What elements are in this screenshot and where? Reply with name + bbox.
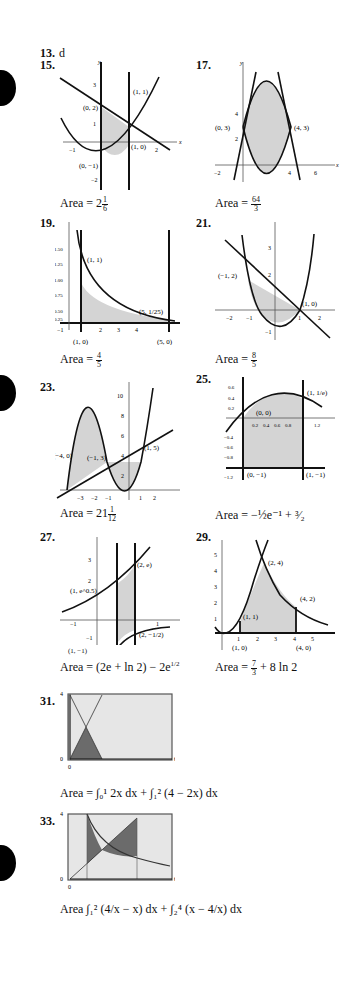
- svg-text:4: 4: [235, 111, 238, 117]
- graph-15: (0, 2) (1, 1) (1, 0) (0, −1) −12 31−2 xy: [55, 60, 185, 192]
- svg-text:(0, 0): (0, 0): [256, 409, 272, 417]
- area-29: Area = 73 + 8 ln 2: [215, 660, 297, 677]
- svg-text:(2, 4): (2, 4): [268, 559, 284, 567]
- graph-21: (−1, 2) (1, 0) −2−112 32−1: [210, 220, 340, 345]
- svg-text:6: 6: [174, 756, 175, 762]
- svg-text:(0, −1): (0, −1): [247, 471, 267, 479]
- svg-text:−1: −1: [265, 329, 271, 335]
- svg-text:(0, 3): (0, 3): [215, 124, 231, 132]
- svg-text:−2: −2: [91, 177, 97, 183]
- svg-text:−1: −1: [86, 635, 92, 641]
- svg-text:(1, 1): (1, 1): [243, 613, 259, 621]
- svg-text:0.6: 0.6: [274, 423, 281, 428]
- svg-text:(1, 1): (1, 1): [133, 88, 149, 96]
- svg-text:(1, 1): (1, 1): [87, 256, 103, 264]
- graph-29: (2, 4) (4, 2) (1, 1) (1, 0) (4, 0) 54321…: [210, 535, 340, 655]
- svg-text:1: 1: [237, 636, 240, 642]
- graph-25: (0, 0) (1, 1/e) (0, −1) (1, −1) 0.20.40.…: [210, 375, 340, 485]
- svg-text:10: 10: [117, 393, 123, 399]
- svg-text:8: 8: [121, 413, 124, 419]
- svg-text:2: 2: [155, 147, 158, 153]
- svg-text:6: 6: [314, 170, 317, 176]
- svg-text:1.00: 1.00: [55, 278, 63, 283]
- svg-text:(1, 0): (1, 0): [73, 338, 89, 345]
- svg-text:(1, −1): (1, −1): [306, 471, 326, 479]
- svg-text:−2: −2: [214, 170, 220, 176]
- svg-text:x: x: [335, 162, 339, 168]
- svg-text:4: 4: [214, 568, 217, 574]
- svg-text:0.25: 0.25: [55, 317, 63, 322]
- area-15: Area = 216: [60, 196, 108, 213]
- svg-text:0.2: 0.2: [252, 423, 259, 428]
- graph-19: (1, 1) (5, 1/25) (1, 0) (5, 0) 1.501.251…: [55, 220, 185, 345]
- svg-text:0: 0: [60, 756, 63, 762]
- svg-text:4: 4: [60, 691, 63, 697]
- problem-number-19: 19.: [40, 216, 55, 231]
- svg-text:(4, 0): (4, 0): [296, 644, 312, 652]
- svg-text:2: 2: [121, 473, 124, 479]
- svg-text:4: 4: [293, 636, 296, 642]
- svg-text:4: 4: [288, 170, 291, 176]
- svg-text:(2, e): (2, e): [137, 561, 152, 569]
- svg-text:(1, 1/e): (1, 1/e): [307, 389, 328, 397]
- area-17: Area = 643: [215, 196, 261, 213]
- svg-text:3: 3: [88, 557, 91, 563]
- svg-text:1: 1: [214, 616, 217, 622]
- svg-text:0: 0: [68, 764, 71, 770]
- svg-text:4: 4: [121, 453, 124, 459]
- svg-text:(0, 2): (0, 2): [83, 104, 99, 112]
- svg-text:(1, 0): (1, 0): [232, 644, 248, 652]
- point-label-27: (1, −1): [68, 647, 87, 655]
- svg-text:(5, 1/25): (5, 1/25): [139, 308, 164, 316]
- area-23: Area = 21112: [60, 506, 116, 523]
- svg-text:1: 1: [139, 495, 142, 501]
- svg-text:0.6: 0.6: [228, 385, 235, 390]
- svg-text:3: 3: [93, 82, 96, 88]
- area-21: Area = 85: [215, 352, 257, 369]
- area-19: Area = 45: [60, 352, 102, 369]
- svg-text:(4, 3): (4, 3): [294, 124, 310, 132]
- svg-text:2: 2: [268, 272, 271, 278]
- svg-text:(1, 0): (1, 0): [302, 300, 318, 308]
- svg-text:1: 1: [156, 621, 159, 627]
- svg-text:1: 1: [93, 121, 96, 127]
- problem-number-17: 17.: [196, 58, 211, 73]
- svg-text:2: 2: [214, 600, 217, 606]
- svg-text:(1, 5): (1, 5): [144, 444, 160, 452]
- svg-text:0: 0: [60, 876, 63, 882]
- graph-27: (2, e) (1, e^0.5) (2, −1/2) −11 32−1: [55, 535, 185, 645]
- problem-number-27: 27.: [40, 530, 55, 545]
- svg-text:x: x: [178, 139, 182, 145]
- svg-text:0.8: 0.8: [285, 423, 292, 428]
- problem-number-29: 29.: [196, 530, 211, 545]
- svg-text:(−1, 3): (−1, 3): [87, 454, 107, 462]
- svg-text:3: 3: [117, 327, 120, 333]
- svg-text:2: 2: [235, 136, 238, 142]
- svg-text:−1: −1: [69, 147, 75, 153]
- calculator-graph-31: 4 0 0 6: [60, 688, 175, 770]
- problem-number-15: 15.: [40, 58, 55, 73]
- area-27: Area = (2e + ln 2) − 2e1/2: [60, 660, 180, 675]
- svg-text:−2: −2: [226, 315, 232, 321]
- svg-text:5: 5: [311, 636, 314, 642]
- binder-hole-bottom: [0, 845, 16, 881]
- problem-number-33: 33.: [40, 814, 55, 829]
- svg-text:−2: −2: [91, 495, 97, 501]
- svg-text:0: 0: [68, 884, 71, 890]
- svg-text:(1, 0): (1, 0): [131, 143, 147, 151]
- svg-text:−1: −1: [105, 495, 111, 501]
- graph-23: (−4, 0) (−1, 3) (1, 5) 108642 −3−2−112: [55, 380, 185, 505]
- answer: d: [59, 46, 65, 60]
- svg-text:−1.2: −1.2: [224, 475, 234, 480]
- svg-text:2: 2: [256, 636, 259, 642]
- svg-text:(1, e^0.5): (1, e^0.5): [70, 587, 97, 595]
- problem-number-25: 25.: [196, 372, 211, 387]
- svg-text:−0.4: −0.4: [224, 435, 234, 440]
- svg-text:4: 4: [135, 327, 138, 333]
- svg-text:−0.8: −0.8: [224, 455, 234, 460]
- svg-text:2: 2: [88, 578, 91, 584]
- svg-text:6: 6: [121, 433, 124, 439]
- svg-text:y: y: [239, 60, 243, 66]
- svg-text:0.4: 0.4: [263, 423, 270, 428]
- svg-text:−1: −1: [70, 621, 76, 627]
